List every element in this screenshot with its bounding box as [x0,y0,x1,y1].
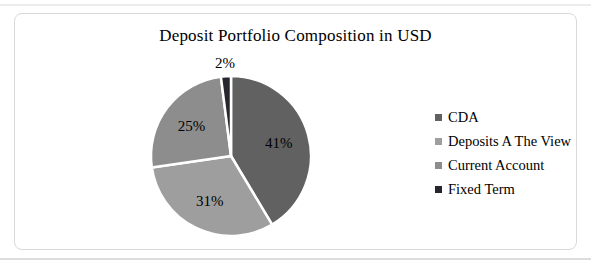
legend-item-fixed-term[interactable]: Fixed Term [435,177,571,201]
legend-marker-icon [435,138,442,145]
legend-label: Current Account [448,157,544,174]
pie-chart: 41%31%25%2% [131,54,371,250]
legend-marker-icon [435,162,442,169]
legend: CDADeposits A The ViewCurrent AccountFix… [435,105,571,201]
pie-label-current-account: 25% [178,118,206,134]
pie-label-fixed-term: 2% [215,55,235,71]
chart-title: Deposit Portfolio Composition in USD [15,26,576,46]
document-rule-top [0,4,591,6]
pie-label-cda: 41% [265,135,293,151]
legend-marker-icon [435,186,442,193]
document-canvas: Deposit Portfolio Composition in USD 41%… [0,0,591,270]
legend-marker-icon [435,114,442,121]
legend-label: CDA [448,109,479,126]
legend-item-deposits-a-the-view[interactable]: Deposits A The View [435,129,571,153]
chart-frame[interactable]: Deposit Portfolio Composition in USD 41%… [14,13,577,250]
legend-label: Fixed Term [448,181,515,198]
legend-item-current-account[interactable]: Current Account [435,153,571,177]
legend-label: Deposits A The View [448,133,571,150]
document-rule-bottom [0,258,591,260]
pie-label-deposits-a-the-view: 31% [196,193,224,209]
legend-item-cda[interactable]: CDA [435,105,571,129]
